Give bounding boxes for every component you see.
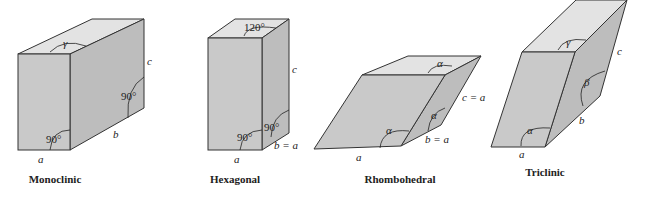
monoclinic-edge-b: b bbox=[113, 128, 119, 140]
hexagonal-side-angle: 90° bbox=[264, 121, 279, 133]
hexagonal-edge-b: b = a bbox=[274, 139, 298, 151]
triclinic-top-angle: γ bbox=[566, 36, 571, 48]
triclinic-caption: Triclinic bbox=[525, 166, 565, 178]
rhombohedral-side-angle: α bbox=[431, 109, 437, 121]
rhombohedral-edge-c: c = a bbox=[462, 91, 486, 103]
rhombohedral-caption: Rhombohedral bbox=[365, 173, 436, 185]
triclinic-side-angle: β bbox=[583, 76, 590, 88]
rhombohedral-edge-a: a bbox=[356, 151, 362, 163]
monoclinic-top-angle: γ bbox=[63, 37, 68, 49]
triclinic-front-angle: α bbox=[527, 124, 533, 136]
rhombohedral-diagram: α c = a α α b = a a Rhombohedral bbox=[314, 56, 486, 185]
monoclinic-edge-c: c bbox=[147, 55, 152, 67]
triclinic-diagram: γ c β α b a Triclinic bbox=[491, 0, 627, 178]
triclinic-edge-c: c bbox=[617, 45, 622, 57]
monoclinic-edge-a: a bbox=[38, 153, 44, 165]
rhombohedral-top-angle: α bbox=[437, 57, 443, 69]
rhombohedral-edge-b: b = a bbox=[425, 133, 449, 145]
triclinic-edge-a: a bbox=[519, 148, 525, 160]
hexagonal-edge-c: c bbox=[292, 63, 297, 75]
monoclinic-diagram: γ c 90° 90° b a Monoclinic bbox=[18, 19, 152, 185]
triclinic-edge-b: b bbox=[579, 114, 585, 126]
hexagonal-front-face bbox=[208, 38, 262, 150]
monoclinic-front-face bbox=[18, 54, 70, 150]
rhombohedral-front-angle: α bbox=[386, 124, 392, 136]
monoclinic-caption: Monoclinic bbox=[29, 173, 82, 185]
hexagonal-caption: Hexagonal bbox=[210, 173, 260, 185]
monoclinic-side-angle: 90° bbox=[121, 90, 136, 102]
hexagonal-top-angle: 120° bbox=[244, 21, 265, 33]
monoclinic-front-angle: 90° bbox=[46, 133, 61, 145]
hexagonal-front-angle: 90° bbox=[237, 131, 252, 143]
hexagonal-diagram: 120° c 90° 90° b = a a Hexagonal bbox=[208, 19, 298, 185]
crystal-systems-diagram: γ c 90° 90° b a Monoclinic 120° c 90° 90… bbox=[0, 0, 645, 199]
hexagonal-edge-a: a bbox=[234, 153, 240, 165]
